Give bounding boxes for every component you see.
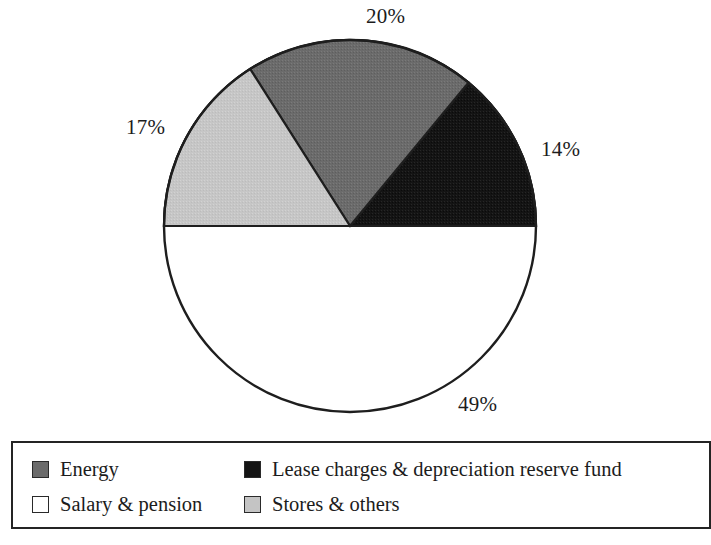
pie-plot-area: 20% 17% 14% 49% xyxy=(0,0,681,430)
legend-swatch-energy-icon xyxy=(32,461,49,478)
legend-grid: Energy Lease charges & depreciation rese… xyxy=(32,452,622,522)
pie-label-lease-charges-pct: 14% xyxy=(541,139,580,160)
legend-item-salary-pension: Salary & pension xyxy=(32,494,244,515)
legend-label-stores-others: Stores & others xyxy=(272,494,400,515)
legend-swatch-stores-others-icon xyxy=(244,496,261,513)
legend-item-lease-charges: Lease charges & depreciation reserve fun… xyxy=(244,459,622,480)
legend-label-lease-charges: Lease charges & depreciation reserve fun… xyxy=(272,459,622,480)
legend-label-energy: Energy xyxy=(60,459,119,480)
pie-svg xyxy=(0,0,681,430)
legend-item-energy: Energy xyxy=(32,459,244,480)
pie-label-salary-pension-pct: 49% xyxy=(458,394,497,415)
legend-label-salary-pension: Salary & pension xyxy=(60,494,202,515)
legend: Energy Lease charges & depreciation rese… xyxy=(11,441,711,529)
legend-swatch-lease-charges-icon xyxy=(244,461,261,478)
legend-item-stores-others: Stores & others xyxy=(244,494,622,515)
pie-label-energy-pct: 20% xyxy=(366,6,405,27)
legend-swatch-salary-pension-icon xyxy=(32,496,49,513)
pie-label-stores-others-pct: 17% xyxy=(126,117,165,138)
